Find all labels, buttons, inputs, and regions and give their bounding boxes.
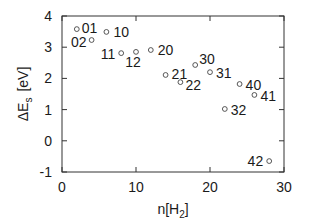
data-point-42 [267,159,272,164]
data-point-01 [74,27,79,32]
scatter-chart: 0102030-101234 0102101112202122303132404… [0,0,309,224]
data-point-30 [193,63,198,68]
y-tick-label: 1 [44,102,52,118]
data-label-11: 11 [101,46,116,62]
y-tick-label: 3 [44,39,52,55]
y-axis-label: ΔEs[eV] [15,67,34,122]
data-point-02 [89,38,94,43]
data-label-12: 12 [125,54,141,70]
data-label-41: 41 [260,88,276,104]
y-tick-label: 4 [44,8,52,24]
data-point-20 [148,48,153,53]
data-label-31: 31 [216,65,232,81]
data-label-40: 40 [246,77,262,93]
data-label-20: 20 [158,42,174,58]
data-label-02: 02 [71,34,87,50]
data-point-11 [119,51,124,56]
x-tick-label: 30 [276,179,292,195]
data-point-32 [222,107,227,112]
x-tick-label: 0 [58,179,66,195]
data-point-10 [104,30,109,35]
data-label-22: 22 [185,77,201,93]
y-tick-label: -1 [40,164,53,180]
x-tick-label: 10 [128,179,144,195]
x-axis-label-close: ] [185,201,189,217]
data-point-31 [208,70,213,75]
data-label-42: 42 [248,153,264,169]
x-tick-label: 20 [202,179,218,195]
data-point-41 [252,93,257,98]
y-tick-label: 0 [44,133,52,149]
data-label-10: 10 [113,24,129,40]
y-tick-label: 2 [44,70,52,86]
plot-frame [62,16,284,172]
data-point-21 [163,73,168,78]
x-axis-label-main: n[H [157,201,179,217]
data-label-30: 30 [199,51,215,67]
x-axis-label: n[H2] [157,201,188,220]
y-axis-label-main: ΔE [15,103,31,122]
data-label-32: 32 [231,102,247,118]
y-axis-label-unit: [eV] [15,67,31,92]
y-axis-label-subscript: s [23,98,34,103]
data-point-40 [237,82,242,87]
